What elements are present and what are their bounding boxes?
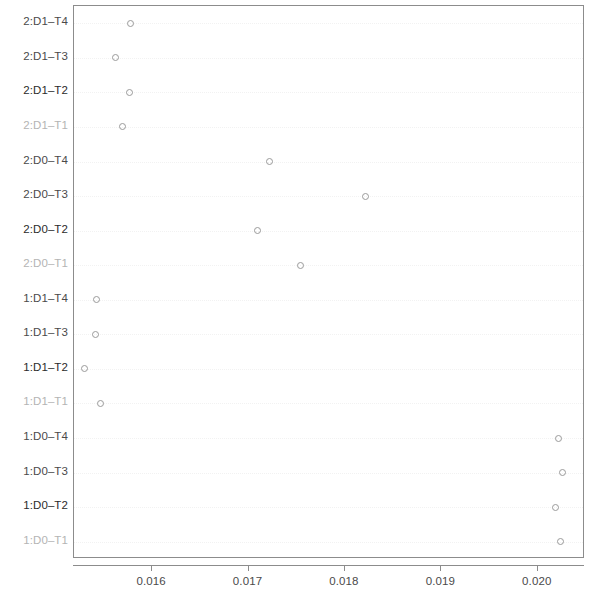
- y-axis-label: 1:D1–T4: [2, 293, 68, 305]
- data-point[interactable]: [93, 296, 100, 303]
- gridline: [74, 58, 583, 60]
- data-point[interactable]: [557, 538, 564, 545]
- y-axis-label: 2:D0–T1: [2, 258, 68, 270]
- gridline: [74, 507, 583, 509]
- y-axis-label: 2:D0–T2: [2, 224, 68, 236]
- plot-panel: [73, 5, 584, 558]
- x-axis-tick: [344, 565, 345, 571]
- data-point[interactable]: [552, 504, 559, 511]
- data-point[interactable]: [254, 227, 261, 234]
- x-axis-tick-label: 0.020: [522, 575, 551, 587]
- y-axis-label: 2:D1–T1: [2, 120, 68, 132]
- y-axis-label: 2:D1–T2: [2, 86, 68, 98]
- gridline: [74, 473, 583, 475]
- gridline: [74, 369, 583, 371]
- gridline: [74, 334, 583, 336]
- data-point[interactable]: [119, 123, 126, 130]
- gridline: [74, 265, 583, 267]
- y-axis-label: 1:D1–T2: [2, 362, 68, 374]
- data-point[interactable]: [266, 158, 273, 165]
- x-axis: 0.0160.0170.0180.0190.020: [73, 558, 584, 607]
- data-point[interactable]: [362, 193, 369, 200]
- y-axis: 2:D1–T42:D1–T32:D1–T22:D1–T12:D0–T42:D0–…: [0, 0, 68, 607]
- gridline: [74, 196, 583, 198]
- y-axis-label: 1:D1–T3: [2, 328, 68, 340]
- x-axis-tick-label: 0.016: [136, 575, 165, 587]
- y-axis-label: 1:D1–T1: [2, 397, 68, 409]
- x-axis-tick-label: 0.019: [426, 575, 455, 587]
- gridline: [74, 162, 583, 164]
- y-axis-label: 2:D0–T4: [2, 155, 68, 167]
- data-point[interactable]: [81, 365, 88, 372]
- gridline: [74, 127, 583, 129]
- y-axis-label: 2:D1–T4: [2, 17, 68, 29]
- gridline: [74, 403, 583, 405]
- data-point[interactable]: [559, 469, 566, 476]
- x-axis-tick: [537, 565, 538, 571]
- data-point[interactable]: [555, 435, 562, 442]
- y-axis-label: 1:D0–T1: [2, 535, 68, 547]
- x-axis-tick-label: 0.018: [329, 575, 358, 587]
- data-point[interactable]: [127, 20, 134, 27]
- x-axis-tick: [248, 565, 249, 571]
- gridline: [74, 438, 583, 440]
- y-axis-label: 2:D1–T3: [2, 51, 68, 63]
- gridline: [74, 300, 583, 302]
- y-axis-label: 1:D0–T2: [2, 500, 68, 512]
- gridline: [74, 23, 583, 25]
- y-axis-label: 2:D0–T3: [2, 189, 68, 201]
- x-axis-tick: [440, 565, 441, 571]
- data-point[interactable]: [92, 331, 99, 338]
- data-point[interactable]: [297, 262, 304, 269]
- y-axis-label: 1:D0–T3: [2, 466, 68, 478]
- data-point[interactable]: [97, 400, 104, 407]
- data-point[interactable]: [126, 89, 133, 96]
- gridline: [74, 92, 583, 94]
- x-axis-tick-label: 0.017: [233, 575, 262, 587]
- dot-plot-figure: 2:D1–T42:D1–T32:D1–T22:D1–T12:D0–T42:D0–…: [0, 0, 602, 607]
- x-axis-tick: [151, 565, 152, 571]
- data-point[interactable]: [112, 54, 119, 61]
- gridline: [74, 231, 583, 233]
- y-axis-label: 1:D0–T4: [2, 431, 68, 443]
- gridline: [74, 542, 583, 544]
- x-axis-line: [73, 565, 584, 566]
